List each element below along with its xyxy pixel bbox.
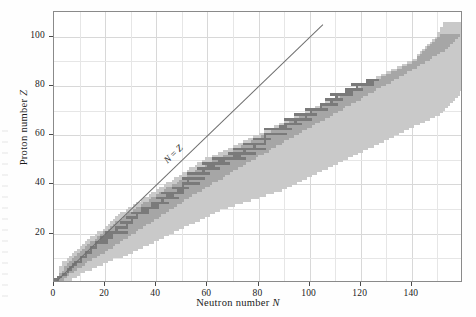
y-axis-title-symbol: Z: [18, 90, 29, 96]
x-axis-title: Neutron number N: [0, 297, 476, 308]
tick-y: [49, 85, 53, 86]
tick-label-y: 100: [13, 30, 45, 40]
tick-x: [53, 282, 54, 286]
y-axis-title-text: Proton number: [18, 96, 29, 166]
chart-figure: N = Z 02040608010012014020406080100 Neut…: [0, 0, 476, 317]
x-axis-title-symbol: N: [272, 297, 279, 308]
tick-x: [104, 282, 105, 286]
tick-x: [411, 282, 412, 286]
plot-area: [53, 11, 462, 282]
tick-x: [360, 282, 361, 286]
y-axis-title: Proton number Z: [18, 53, 29, 203]
tick-x: [258, 282, 259, 286]
x-axis-title-text: Neutron number: [196, 297, 272, 308]
tick-x: [309, 282, 310, 286]
tick-label-y: 20: [13, 227, 45, 237]
tick-x: [155, 282, 156, 286]
reference-line-layer: [54, 12, 461, 281]
page-margin-artifact: [2, 130, 8, 305]
tick-y: [49, 134, 53, 135]
n-equals-z-line: [54, 24, 323, 282]
tick-x: [206, 282, 207, 286]
tick-y: [49, 36, 53, 37]
tick-y: [49, 233, 53, 234]
tick-y: [49, 183, 53, 184]
